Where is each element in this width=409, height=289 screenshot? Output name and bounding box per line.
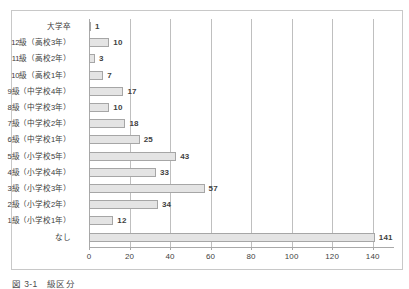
chart-row: 8級（中学校3年）10	[12, 100, 402, 116]
category-label: 大学卒	[47, 19, 71, 35]
bar	[89, 200, 158, 209]
chart-row: なし141	[12, 230, 402, 246]
category-label: 2級（小学校2年）	[7, 197, 71, 213]
category-label: 5級（小学校5年）	[7, 149, 71, 165]
x-tick-label-140: 140	[366, 252, 380, 261]
bar	[89, 22, 91, 31]
x-tick-label-120: 120	[325, 252, 339, 261]
bar-value-label: 25	[144, 132, 153, 148]
chart-row: 大学卒1	[12, 19, 402, 35]
chart-row: 6級（中学校1年）25	[12, 132, 402, 148]
bar-value-label: 7	[107, 68, 112, 84]
chart-row: 4級（小学校4年）33	[12, 165, 402, 181]
figure-caption: 図 3-1 級区分	[12, 277, 75, 289]
chart-figure-frame: 020406080100120140 大学卒112級（高校3年）1011級（高校…	[11, 10, 403, 270]
x-tick-label-60: 60	[206, 252, 215, 261]
bar	[89, 168, 156, 177]
bar	[89, 152, 176, 161]
bar-value-label: 18	[129, 116, 138, 132]
x-tick-label-0: 0	[87, 252, 92, 261]
chart-row: 12級（高校3年）10	[12, 35, 402, 51]
category-label: 6級（中学校1年）	[7, 132, 71, 148]
category-label: 8級（中学校3年）	[7, 100, 71, 116]
bar	[89, 233, 375, 242]
chart-plot-wrapper: 020406080100120140 大学卒112級（高校3年）1011級（高校…	[12, 11, 402, 269]
bar-value-label: 10	[113, 100, 122, 116]
chart-row: 1級（小学校1年）12	[12, 213, 402, 229]
bar	[89, 87, 123, 96]
category-label: 1級（小学校1年）	[7, 213, 71, 229]
chart-row: 9級（中学校4年）17	[12, 84, 402, 100]
category-label: なし	[55, 230, 71, 246]
bar	[89, 103, 109, 112]
chart-row: 11級（高校2年）3	[12, 51, 402, 67]
bar-value-label: 34	[162, 197, 171, 213]
category-label: 11級（高校2年）	[12, 51, 71, 67]
bar-value-label: 43	[180, 149, 189, 165]
bar	[89, 71, 103, 80]
chart-row: 5級（小学校5年）43	[12, 149, 402, 165]
bar-value-label: 141	[379, 230, 393, 246]
bar-value-label: 10	[113, 35, 122, 51]
chart-x-axis-line	[89, 247, 394, 248]
category-label: 7級（中学校2年）	[7, 116, 71, 132]
chart-row: 7級（中学校2年）18	[12, 116, 402, 132]
chart-row: 2級（小学校2年）34	[12, 197, 402, 213]
chart-row: 3級（小学校3年）57	[12, 181, 402, 197]
category-label: 4級（小学校4年）	[7, 165, 71, 181]
bar-value-label: 3	[99, 51, 104, 67]
bar-value-label: 33	[160, 165, 169, 181]
bar-value-label: 57	[209, 181, 218, 197]
category-label: 9級（中学校4年）	[7, 84, 71, 100]
bar	[89, 54, 95, 63]
bar	[89, 38, 109, 47]
bar	[89, 184, 205, 193]
bar	[89, 216, 113, 225]
x-tick-label-40: 40	[165, 252, 174, 261]
chart-row: 10級（高校1年）7	[12, 68, 402, 84]
bar	[89, 119, 125, 128]
bar-value-label: 12	[117, 213, 126, 229]
bar	[89, 135, 140, 144]
bar-value-label: 1	[95, 19, 100, 35]
category-label: 12級（高校3年）	[11, 35, 71, 51]
category-label: 3級（小学校3年）	[7, 181, 71, 197]
category-label: 10級（高校1年）	[11, 68, 71, 84]
x-tick-label-20: 20	[125, 252, 134, 261]
x-tick-label-100: 100	[285, 252, 299, 261]
bar-value-label: 17	[127, 84, 136, 100]
x-tick-label-80: 80	[246, 252, 255, 261]
